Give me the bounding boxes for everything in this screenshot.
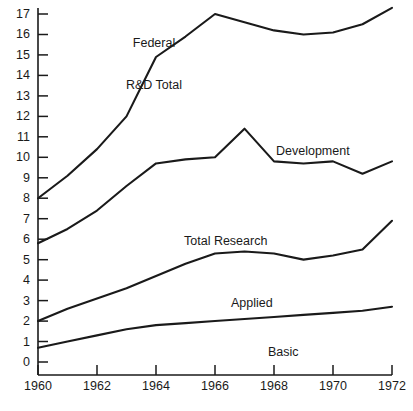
y-tick-label-7: 7 bbox=[8, 213, 30, 225]
y-tick-label-15: 15 bbox=[8, 49, 30, 61]
annotation-development: Development bbox=[276, 144, 350, 158]
y-tick-marks bbox=[38, 14, 48, 362]
y-tick-label-14: 14 bbox=[8, 69, 30, 81]
annotation-federal-rd-total: Federal R&D Total bbox=[104, 8, 204, 120]
line-chart: 17 16 15 14 13 12 11 10 9 8 7 6 5 4 3 2 … bbox=[0, 0, 413, 411]
y-tick-label-1: 1 bbox=[8, 336, 30, 348]
x-tick-marks bbox=[38, 365, 392, 375]
y-tick-label-8: 8 bbox=[8, 192, 30, 204]
y-tick-label-17: 17 bbox=[8, 8, 30, 20]
y-tick-label-5: 5 bbox=[8, 254, 30, 266]
x-tick-label-1964: 1964 bbox=[136, 380, 176, 393]
annotation-total-research: Total Research bbox=[184, 234, 267, 248]
annotation-federal-rd-total-line1: Federal bbox=[104, 36, 204, 50]
y-tick-label-3: 3 bbox=[8, 295, 30, 307]
y-tick-label-11: 11 bbox=[8, 131, 30, 143]
y-tick-label-9: 9 bbox=[8, 172, 30, 184]
y-tick-label-12: 12 bbox=[8, 110, 30, 122]
series-federal-rd-total bbox=[38, 8, 392, 198]
y-tick-label-0: 0 bbox=[8, 356, 30, 368]
y-tick-label-13: 13 bbox=[8, 90, 30, 102]
annotation-applied: Applied bbox=[231, 296, 273, 310]
x-tick-label-1968: 1968 bbox=[254, 380, 294, 393]
y-tick-label-16: 16 bbox=[8, 28, 30, 40]
x-tick-label-1962: 1962 bbox=[77, 380, 117, 393]
x-tick-label-1970: 1970 bbox=[313, 380, 353, 393]
y-tick-label-4: 4 bbox=[8, 274, 30, 286]
x-tick-label-1966: 1966 bbox=[195, 380, 235, 393]
x-tick-label-1960: 1960 bbox=[18, 380, 58, 393]
series-applied bbox=[38, 307, 392, 348]
y-tick-label-10: 10 bbox=[8, 151, 30, 163]
x-tick-label-1972: 1972 bbox=[372, 380, 412, 393]
y-tick-label-2: 2 bbox=[8, 315, 30, 327]
annotation-basic: Basic bbox=[268, 345, 299, 359]
plot-area bbox=[0, 0, 413, 411]
y-tick-label-6: 6 bbox=[8, 233, 30, 245]
annotation-federal-rd-total-line2: R&D Total bbox=[104, 78, 204, 92]
